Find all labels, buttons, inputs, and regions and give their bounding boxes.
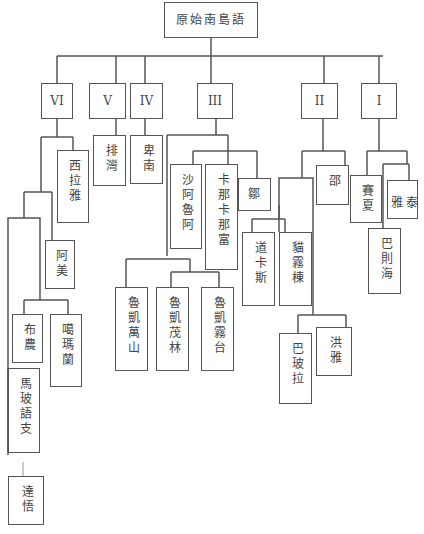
group-node-IV: IV: [130, 83, 163, 119]
leaf-label-siraya: 西拉雅: [66, 159, 81, 204]
group-node-V: V: [89, 83, 126, 119]
leaf-label-tao: 達悟: [19, 485, 34, 515]
language-family-tree: 原始南島語 VI V IV III II I 西拉雅 阿美 布農 噶瑪蘭 馬玻語…: [0, 0, 424, 534]
group-label-IV: IV: [140, 94, 153, 109]
leaf-label-rukai-wutai: 魯凱霧台: [210, 296, 225, 356]
group-label-VI: VI: [50, 94, 63, 109]
leaf-node-kanakanavu: 卡那卡那富: [205, 164, 238, 270]
leaf-label-kavalan: 噶瑪蘭: [59, 323, 74, 368]
group-node-III: III: [197, 83, 233, 119]
leaf-label-bunun: 布農: [20, 323, 35, 353]
leaf-node-malayo-polynesian: 馬玻語支: [8, 368, 40, 453]
group-node-VI: VI: [41, 83, 73, 119]
leaf-label-papora: 巴玻拉: [288, 342, 303, 387]
root-node-proto-austronesian: 原始南島語: [164, 2, 258, 38]
leaf-node-rukai-wanshan: 魯凱萬山: [115, 287, 148, 371]
leaf-node-taokas: 道卡斯: [242, 232, 275, 306]
leaf-node-kavalan: 噶瑪蘭: [50, 314, 82, 387]
leaf-node-papora: 巴玻拉: [279, 333, 312, 404]
leaf-label-amis: 阿美: [53, 249, 68, 279]
leaf-label-malayo-polynesian: 馬玻語支: [17, 377, 32, 437]
group-label-III: III: [208, 94, 222, 109]
group-node-II: II: [301, 83, 338, 119]
leaf-node-thao: 邵: [316, 165, 349, 205]
leaf-node-babuza: 貓霧棟: [279, 232, 312, 306]
group-label-I: I: [377, 94, 382, 109]
leaf-label-kanakanavu: 卡那卡那富: [214, 173, 229, 248]
leaf-label-hoanya: 洪雅: [327, 336, 342, 366]
leaf-label-paiwan: 排灣: [102, 144, 117, 174]
leaf-node-rukai-wutai: 魯凱霧台: [201, 287, 234, 371]
leaf-node-paiwan: 排灣: [93, 135, 126, 186]
leaf-node-tao: 達悟: [8, 476, 44, 525]
leaf-node-hoanya: 洪雅: [316, 327, 352, 376]
leaf-node-atayal: 泰雅: [387, 180, 418, 219]
leaf-node-saisiyat: 賽夏: [350, 175, 382, 223]
leaf-label-saaroa: 沙阿魯阿: [179, 173, 194, 233]
group-label-II: II: [315, 94, 324, 109]
root-label: 原始南島語: [176, 13, 246, 28]
leaf-label-saisiyat: 賽夏: [359, 184, 374, 214]
leaf-label-rukai-wanshan: 魯凱萬山: [124, 296, 139, 356]
leaf-label-rukai-maolin: 魯凱茂林: [165, 296, 180, 356]
leaf-node-saaroa: 沙阿魯阿: [170, 164, 202, 249]
leaf-node-siraya: 西拉雅: [57, 150, 89, 223]
leaf-label-tsou: 鄒: [248, 187, 262, 202]
leaf-label-atayal: 泰雅: [388, 189, 418, 218]
leaf-label-thao: 邵: [325, 174, 340, 189]
leaf-label-pazeh: 巴則海: [377, 237, 392, 282]
group-node-I: I: [361, 83, 397, 119]
leaf-label-puyuma: 卑南: [139, 144, 154, 174]
group-label-V: V: [103, 94, 112, 109]
leaf-node-tsou: 鄒: [238, 178, 271, 211]
leaf-node-puyuma: 卑南: [130, 135, 163, 184]
leaf-node-bunun: 布農: [12, 314, 43, 363]
leaf-label-babuza: 貓霧棟: [288, 241, 303, 286]
leaf-label-taokas: 道卡斯: [251, 241, 266, 286]
leaf-node-pazeh: 巴則海: [368, 228, 401, 294]
leaf-node-rukai-maolin: 魯凱茂林: [156, 287, 189, 371]
leaf-node-amis: 阿美: [45, 240, 75, 289]
